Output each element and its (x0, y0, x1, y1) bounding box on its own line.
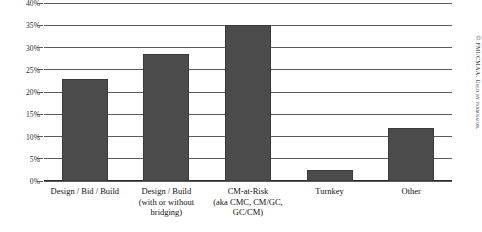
y-tick-label: 5% (4, 154, 40, 163)
bar (62, 79, 108, 181)
y-axis: 0%5%10%15%20%25%30%35%40% (0, 3, 40, 181)
x-axis: Design / Bid / BuildDesign / Build(with … (44, 186, 452, 230)
x-tick-label-line: Turnkey (289, 186, 371, 197)
x-tick-label: Other (370, 186, 452, 197)
bar (225, 25, 271, 181)
x-tick-label-line: Design / Bid / Build (44, 186, 126, 197)
y-tick-mark (37, 69, 43, 70)
x-tick-label-line: bridging) (126, 207, 208, 218)
y-tick-label: 20% (4, 88, 40, 97)
y-tick-mark (37, 92, 43, 93)
y-tick-label: 15% (4, 110, 40, 119)
x-tick-label: Turnkey (289, 186, 371, 197)
bar (143, 54, 189, 181)
x-tick-label-line: CM-at-Risk (207, 186, 289, 197)
y-tick-label: 30% (4, 43, 40, 52)
copyright-credit: © FMI/CMAA. Used by permission. (475, 36, 482, 164)
y-tick-label: 35% (4, 21, 40, 30)
x-tick-label-line: Other (370, 186, 452, 197)
chart-figure: 0%5%10%15%20%25%30%35%40% Design / Bid /… (0, 0, 482, 232)
x-tick-label-line: (aka CMC, CM/GC, (207, 197, 289, 208)
y-tick-label: 40% (4, 0, 40, 8)
y-tick-mark (37, 181, 43, 182)
x-tick-label-line: GC/CM) (207, 207, 289, 218)
y-tick-label: 10% (4, 132, 40, 141)
y-tick-label: 0% (4, 177, 40, 186)
x-tick-label: Design / Bid / Build (44, 186, 126, 197)
y-tick-mark (37, 158, 43, 159)
y-tick-mark (37, 3, 43, 4)
y-tick-mark (37, 25, 43, 26)
y-tick-label: 25% (4, 65, 40, 74)
bar (307, 170, 353, 181)
x-tick-label-line: Design / Build (126, 186, 208, 197)
x-tick-label: CM-at-Risk(aka CMC, CM/GC,GC/CM) (207, 186, 289, 218)
x-tick-label: Design / Build(with or withoutbridging) (126, 186, 208, 218)
y-tick-mark (37, 114, 43, 115)
y-tick-mark (37, 136, 43, 137)
plot-area (44, 3, 452, 181)
y-tick-mark (37, 47, 43, 48)
gridline-40pct (44, 3, 452, 4)
x-tick-label-line: (with or without (126, 197, 208, 208)
bar (388, 128, 434, 181)
